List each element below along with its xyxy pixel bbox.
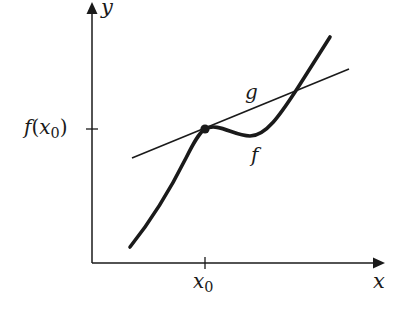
tangent-point-dot [200, 124, 209, 133]
x-axis-label: x [373, 271, 385, 292]
curve-f-label: f [251, 145, 258, 165]
x-tick-sub: 0 [204, 279, 213, 295]
x-axis-arrow-icon [373, 258, 385, 269]
curve-g-label: g [245, 82, 258, 102]
y-tick-var: x [39, 115, 50, 139]
curve-f [130, 37, 330, 247]
x-tick-label-x0: x0 [193, 271, 213, 294]
y-tick-sub: 0 [51, 125, 60, 141]
x-tick-var: x [193, 269, 204, 293]
y-axis-label: y [101, 0, 113, 18]
y-tick-label-fx0: f(x0) [24, 117, 67, 140]
diagram-canvas [0, 0, 408, 310]
y-tick-close-paren: ) [60, 115, 68, 139]
y-axis-arrow-icon [87, 2, 98, 14]
tangent-line-g [132, 69, 349, 158]
